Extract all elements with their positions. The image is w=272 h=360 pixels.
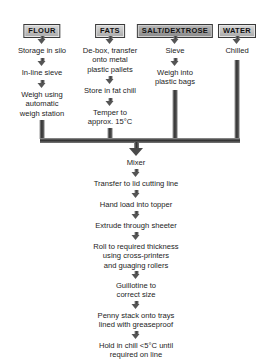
step-hand-load-topper: Hand load into topper <box>100 200 173 209</box>
arrow-down-icon <box>38 80 47 88</box>
step-fats-3: Temper to approx. 15°C <box>88 108 132 127</box>
arrow-down-icon <box>132 301 141 309</box>
rail-flour-to-junction <box>40 120 45 139</box>
step-hold-in-chill: Hold in chill <5°C until required on lin… <box>99 341 173 360</box>
step-flour-2: In-line sieve <box>22 68 63 77</box>
arrow-down-icon <box>106 98 115 106</box>
step-guillotine: Guillotine to correct size <box>116 281 156 300</box>
step-mixer: Mixer <box>127 158 146 167</box>
arrow-down-icon <box>106 76 115 84</box>
rail-salt-to-junction <box>173 90 178 139</box>
arrow-down-icon <box>132 331 141 339</box>
arrow-down-icon <box>171 58 180 66</box>
arrow-down-icon <box>106 36 115 44</box>
step-fats-1: De-box, transfer onto metal plastic pall… <box>83 46 137 74</box>
arrow-down-icon <box>132 271 141 279</box>
arrow-down-icon <box>132 232 141 240</box>
arrow-down-icon <box>171 36 180 44</box>
step-penny-stack: Penny stack onto trays lined with grease… <box>98 311 175 330</box>
arrow-down-icon <box>38 36 47 44</box>
step-salt-1: Sieve <box>166 46 185 55</box>
step-fats-2: Store in fat chill <box>84 86 136 95</box>
arrow-down-icon-mixer <box>129 142 143 156</box>
arrow-down-icon <box>132 211 141 219</box>
arrow-down-icon <box>132 190 141 198</box>
step-extrude-sheeter: Extrude through sheeter <box>95 221 176 230</box>
step-roll-thickness: Roll to required thickness using cross-p… <box>93 242 178 270</box>
arrow-down-icon <box>38 58 47 66</box>
step-transfer-lid-cutting: Transfer to lid cutting line <box>94 179 179 188</box>
rail-water-to-junction <box>235 60 240 139</box>
step-flour-1: Storage in silo <box>18 46 66 55</box>
arrow-down-icon <box>132 169 141 177</box>
step-water-1: Chilled <box>225 46 248 55</box>
step-flour-3: Weigh using automatic weigh station <box>20 90 64 118</box>
arrow-down-icon <box>233 36 242 44</box>
step-salt-2: Weigh into plastic bags <box>155 68 195 87</box>
